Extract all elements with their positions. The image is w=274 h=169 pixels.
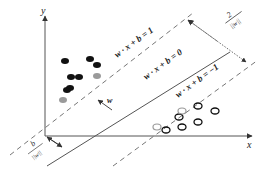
support-vector-point [93,73,101,79]
data-point [67,74,75,80]
negative-margin-label: w · x + b = −1 [173,62,220,100]
margin-width-arrow [188,20,246,62]
data-point [66,85,74,91]
decision-boundary-label: w · x + b = 0 [141,46,184,81]
data-point [194,119,202,125]
margin-width-label: 2 ||w|| [220,4,247,30]
data-point [93,62,101,68]
diagram-canvas: y x w · x + b = 1 w · x + b = 0 w · x + … [0,0,274,169]
data-point [61,58,69,64]
data-point [75,74,83,80]
svm-margin-diagram: y x w · x + b = 1 w · x + b = 0 w · x + … [0,0,274,169]
positive-margin-line [10,13,193,155]
negative-class-points [162,103,219,133]
x-axis-label: x [246,139,252,150]
data-point [162,127,170,133]
support-vector-point [153,124,161,130]
data-point [211,108,219,114]
support-vector-point [178,108,186,114]
data-point [175,114,183,120]
positive-margin-label: w · x + b = 1 [112,25,155,60]
data-point [178,124,186,130]
offset-label: b ||w|| [22,135,48,161]
normal-vector-label: w [107,96,113,105]
support-vector-point [59,97,67,103]
y-axis-label: y [40,5,46,16]
offset-numerator: b [29,139,38,149]
negative-support-vectors [153,108,186,130]
data-point [86,56,94,62]
offset-arrow [47,137,62,147]
